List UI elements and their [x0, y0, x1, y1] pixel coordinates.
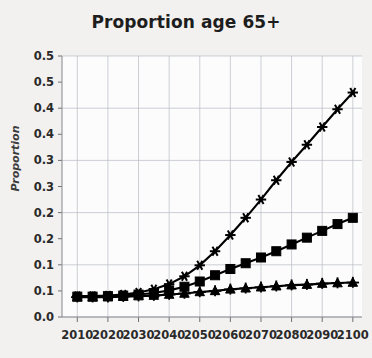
x-tick-label: 2100: [337, 328, 369, 342]
chart-container: Proportion age 65+ Proportion 0.00.10.10…: [0, 0, 372, 358]
y-tick-label: 0.5: [34, 49, 54, 63]
x-tick-labels: 2010202020302040205020602070208020902100: [61, 328, 369, 342]
x-tick-label: 2010: [61, 328, 93, 342]
x-tick-label: 2030: [123, 328, 155, 342]
y-tick-label: 0.4: [34, 101, 54, 115]
x-tick-label: 2050: [184, 328, 216, 342]
x-tick-label: 2080: [276, 328, 308, 342]
y-tick-label: 0.3: [34, 180, 54, 194]
y-tick-labels: 0.00.10.10.20.20.30.30.40.40.50.5: [34, 49, 54, 324]
y-tick-label: 0.0: [34, 310, 54, 324]
x-tick-label: 2040: [153, 328, 185, 342]
x-tick-label: 2070: [245, 328, 277, 342]
y-tick-label: 0.1: [34, 284, 54, 298]
x-tick-label: 2060: [214, 328, 246, 342]
y-tick-label: 0.2: [34, 206, 54, 220]
plot-area: 0.00.10.10.20.20.30.30.40.40.50.5 201020…: [0, 0, 372, 358]
y-tick-label: 0.3: [34, 153, 54, 167]
x-tick-label: 2090: [306, 328, 338, 342]
x-tick-label: 2020: [92, 328, 124, 342]
y-tick-label: 0.4: [34, 127, 54, 141]
y-tick-label: 0.5: [34, 75, 54, 89]
y-tick-label: 0.2: [34, 232, 54, 246]
y-tick-label: 0.1: [34, 258, 54, 272]
